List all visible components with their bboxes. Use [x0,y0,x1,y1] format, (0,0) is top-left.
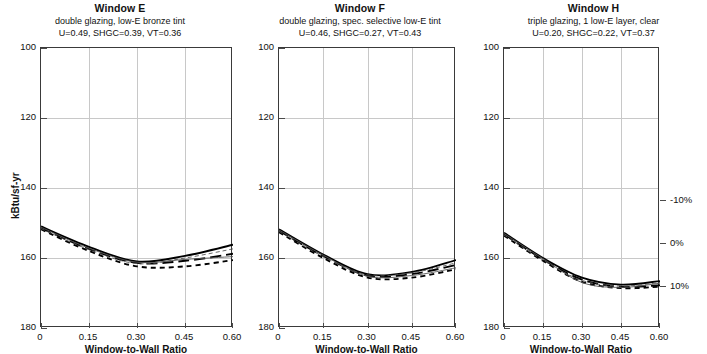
series-line [279,229,456,275]
right-axis-tick-label: -10% [670,194,692,205]
y-tick-label: 160 [242,251,274,262]
series-layer [504,48,660,328]
series-line [41,227,233,262]
y-tick-mark [41,328,47,329]
panel-window-e: Window E double glazing, low-E bronze ti… [0,0,240,354]
plot-area [503,47,659,327]
y-tick-mark [504,328,510,329]
panel-title: Window E [0,2,240,14]
panel-subtitle-description: triple glazing, 1 low-E layer, clear [480,16,707,26]
panel-subtitle-properties: U=0.46, SHGC=0.27, VT=0.43 [240,28,480,38]
y-tick-label: 100 [467,41,499,52]
series-line [41,227,233,263]
panel-subtitle-description: double glazing, spec. selective low-E ti… [240,16,480,26]
series-layer [279,48,456,328]
x-tick-label: 0.45 [391,331,431,342]
y-tick-label: 140 [242,181,274,192]
y-tick-label: 140 [4,181,36,192]
x-tick-label: 0.60 [435,331,475,342]
y-tick-label: 140 [467,181,499,192]
x-tick-label: 0 [483,331,523,342]
x-tick-label: 0 [20,331,60,342]
series-layer [41,48,233,328]
figure-root: kBtu/sf-yr Window E double glazing, low-… [0,0,707,354]
y-tick-label: 100 [242,41,274,52]
right-axis-tick-label: 10% [670,280,689,291]
y-tick-label: 120 [467,111,499,122]
x-axis-title: Window-to-Wall Ratio [503,344,659,354]
x-tick-label: 0.60 [639,331,679,342]
y-tick-label: 120 [242,111,274,122]
panel-window-h: Window H triple glazing, 1 low-E layer, … [480,0,707,354]
panel-title: Window H [480,2,707,14]
x-tick-label: 0.45 [164,331,204,342]
x-tick-label: 0.15 [302,331,342,342]
x-axis-title: Window-to-Wall Ratio [40,344,232,354]
x-tick-label: 0.30 [347,331,387,342]
series-line [279,231,456,277]
series-line [279,231,456,276]
right-axis-tick-label: 0% [670,237,684,248]
right-axis-tick-mark [660,243,666,244]
x-tick-label: 0.15 [68,331,108,342]
x-tick-label: 0 [258,331,298,342]
plot-area [40,47,232,327]
panel-subtitle-properties: U=0.49, SHGC=0.39, VT=0.36 [0,28,240,38]
right-axis-tick-mark [660,200,666,201]
y-tick-label: 100 [4,41,36,52]
x-axis-title: Window-to-Wall Ratio [278,344,455,354]
x-tick-label: 0.30 [561,331,601,342]
series-line [504,234,660,287]
right-axis-tick-mark [660,286,666,287]
y-tick-label: 160 [4,251,36,262]
y-tick-mark [279,328,285,329]
panel-subtitle-description: double glazing, low-E bronze tint [0,16,240,26]
x-tick-label: 0.45 [600,331,640,342]
series-line [504,233,660,285]
y-tick-label: 120 [4,111,36,122]
panel-window-f: Window F double glazing, spec. selective… [240,0,480,354]
panel-subtitle-properties: U=0.20, SHGC=0.22, VT=0.37 [480,28,707,38]
x-tick-label: 0.15 [522,331,562,342]
series-line [279,232,456,279]
plot-area [278,47,455,327]
x-tick-label: 0.30 [116,331,156,342]
panel-title: Window F [240,2,480,14]
y-tick-label: 160 [467,251,499,262]
